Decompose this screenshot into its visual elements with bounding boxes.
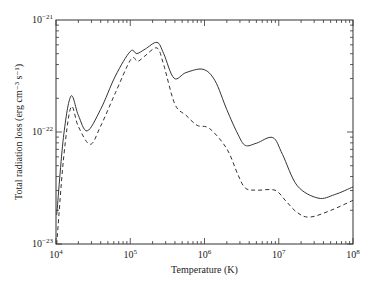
- x-tick-labels: 104105106107108: [49, 248, 360, 260]
- x-axis-label: Temperature (K): [171, 264, 238, 276]
- x-tick-label: 104: [49, 248, 63, 260]
- x-tick-label: 105: [124, 248, 138, 260]
- y-tick-label: 10−21: [32, 13, 53, 25]
- chart: 104105106107108 10−2110−2210−23 Temperat…: [0, 0, 371, 286]
- data-curves: [57, 42, 353, 244]
- dashed-curve: [57, 48, 353, 244]
- x-tick-label: 107: [272, 248, 286, 260]
- axis-ticks: [56, 20, 353, 244]
- plot-frame: [56, 20, 353, 244]
- y-tick-label: 10−22: [32, 125, 53, 137]
- x-tick-label: 108: [346, 248, 360, 260]
- x-tick-label: 106: [198, 248, 212, 260]
- y-tick-labels: 10−2110−2210−23: [32, 13, 53, 249]
- y-tick-label: 10−23: [32, 237, 53, 249]
- solid-curve: [57, 42, 353, 215]
- y-axis-label: Total radiation loss (erg cm⁻³ s⁻¹): [13, 64, 25, 200]
